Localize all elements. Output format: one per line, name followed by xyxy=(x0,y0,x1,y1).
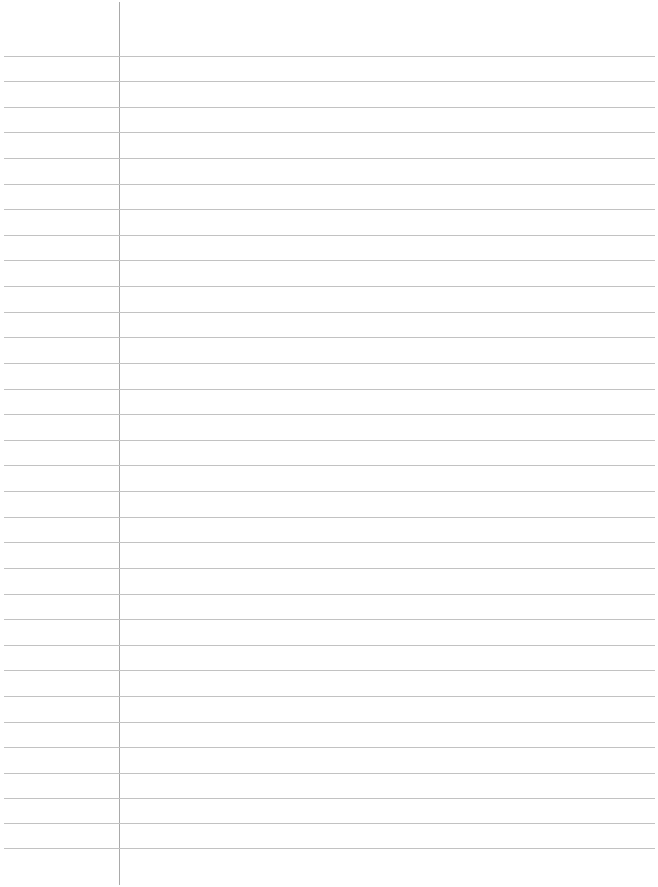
ruled-line xyxy=(4,312,655,313)
margin-line xyxy=(119,2,120,885)
ruled-line xyxy=(4,542,655,543)
ruled-line xyxy=(4,465,655,466)
ruled-line xyxy=(4,389,655,390)
ruled-line xyxy=(4,798,655,799)
ruled-line xyxy=(4,645,655,646)
ruled-line xyxy=(4,619,655,620)
ruled-line xyxy=(4,722,655,723)
ruled-line xyxy=(4,848,655,849)
ruled-line xyxy=(4,184,655,185)
lined-paper-sheet xyxy=(0,0,658,887)
ruled-line xyxy=(4,773,655,774)
ruled-line xyxy=(4,517,655,518)
ruled-line xyxy=(4,594,655,595)
ruled-line xyxy=(4,337,655,338)
ruled-line xyxy=(4,132,655,133)
ruled-line xyxy=(4,235,655,236)
ruled-line xyxy=(4,81,655,82)
ruled-line xyxy=(4,107,655,108)
ruled-line xyxy=(4,56,655,57)
ruled-line xyxy=(4,696,655,697)
ruled-line xyxy=(4,568,655,569)
ruled-line xyxy=(4,823,655,824)
ruled-line xyxy=(4,747,655,748)
ruled-line xyxy=(4,286,655,287)
ruled-line xyxy=(4,414,655,415)
ruled-line xyxy=(4,670,655,671)
ruled-line xyxy=(4,491,655,492)
ruled-line xyxy=(4,363,655,364)
ruled-line xyxy=(4,260,655,261)
ruled-line xyxy=(4,158,655,159)
ruled-line xyxy=(4,440,655,441)
ruled-line xyxy=(4,209,655,210)
